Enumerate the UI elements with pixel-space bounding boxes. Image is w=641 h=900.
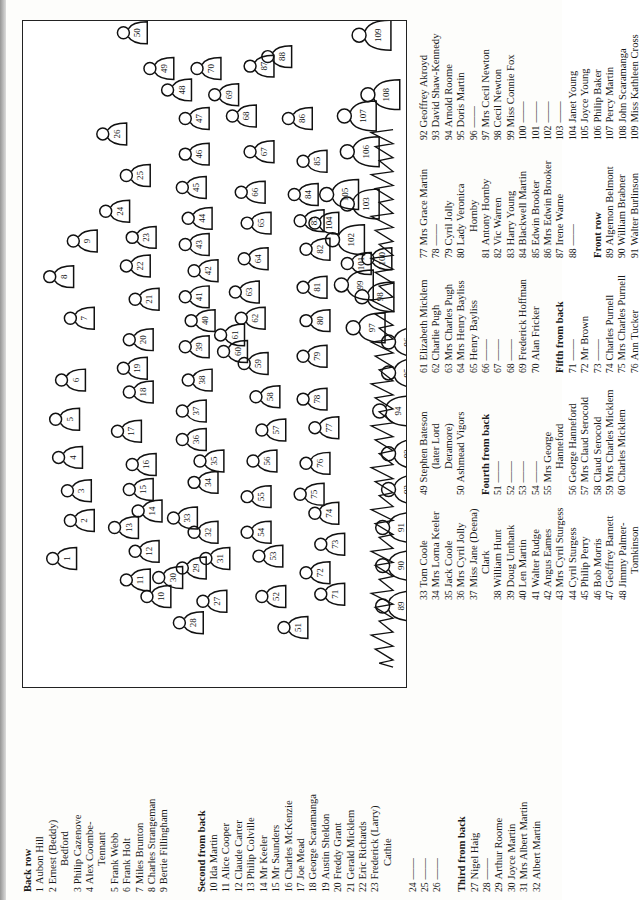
- person-name: Geoffrey Akroyd: [418, 55, 429, 127]
- person-name: Charles Strangeman: [146, 799, 157, 885]
- head-outline: [294, 488, 306, 500]
- head-outline: [320, 188, 334, 202]
- person-name: ——: [517, 101, 528, 122]
- figure-number-label: 12: [144, 547, 154, 556]
- person-entry: 4Alex Coombe-: [84, 794, 96, 892]
- head-outline: [182, 212, 194, 224]
- person-entry: 17Joe Mead: [295, 794, 307, 892]
- person-number: 8: [146, 887, 158, 892]
- person-number: 76: [629, 363, 641, 373]
- row-heading: Second from back: [196, 794, 208, 892]
- head-outline: [185, 315, 197, 327]
- person-number: 87: [554, 248, 566, 258]
- person-entry-continued: (later Lord: [430, 389, 442, 495]
- head-outline: [315, 538, 327, 550]
- person-number: 30: [506, 882, 518, 892]
- person-entry-continued: Tennant: [96, 794, 108, 892]
- head-outline: [176, 405, 188, 417]
- person-number: 82: [492, 248, 504, 258]
- head-outline: [162, 84, 174, 96]
- person-name: Geoffrey Barnett: [604, 516, 615, 588]
- head-outline: [288, 189, 300, 201]
- figure-number-label: 85: [312, 156, 322, 165]
- person-name: Philip Cazenove: [72, 814, 83, 884]
- person-number: 104: [567, 126, 579, 140]
- person-silhouette: 24: [100, 200, 130, 222]
- head-outline: [61, 485, 73, 497]
- person-entry: 75Mrs Charles Purnell: [616, 275, 628, 373]
- person-entry: 55Mrs George: [542, 389, 554, 495]
- group-photo-key-diagram: 1234567891011121314151617181920212223242…: [22, 20, 407, 688]
- person-silhouette: 20: [123, 329, 153, 351]
- person-silhouette: 68: [226, 105, 256, 127]
- person-silhouette: 109: [352, 21, 391, 50]
- person-number: 58: [592, 485, 604, 495]
- figure-number-label: 60: [233, 347, 243, 356]
- person-number: 54: [530, 485, 542, 495]
- spacer: [542, 275, 554, 373]
- person-silhouette: 90: [376, 551, 406, 581]
- person-silhouette: 17: [112, 420, 142, 442]
- person-silhouette: 108: [361, 80, 400, 110]
- person-silhouette: 43: [179, 234, 209, 256]
- row-heading: Front row: [592, 161, 604, 258]
- person-number: 42: [542, 590, 554, 600]
- figure-number-label: 89: [396, 601, 406, 610]
- person-number: 107: [604, 126, 616, 140]
- person-entry: 94Arnold Roome: [443, 34, 455, 140]
- figure-number-label: 77: [324, 423, 334, 432]
- person-silhouette: 18: [123, 381, 153, 403]
- person-number: 23: [369, 882, 381, 892]
- person-name: ——: [554, 101, 565, 122]
- figure-number-label: 61: [230, 330, 240, 339]
- person-silhouette: 3: [61, 480, 91, 502]
- person-entry: 36Mrs Cyril Jolly: [455, 508, 467, 600]
- figure-number-label: 79: [312, 351, 322, 360]
- person-number: 47: [604, 590, 616, 600]
- head-outline: [226, 110, 238, 122]
- person-name: ——: [492, 339, 503, 360]
- figure-number-label: 1: [62, 556, 72, 560]
- person-entry-continued: Hornby: [468, 161, 480, 258]
- person-number: 77: [418, 248, 430, 258]
- person-name: Blackwell Martin: [517, 171, 528, 245]
- row-heading: Third from back: [456, 794, 468, 892]
- person-entry: 43Mrs Cyril Sturgess: [554, 508, 566, 600]
- person-name: Joyce Martin: [506, 824, 517, 880]
- person-number: 68: [505, 363, 517, 373]
- head-outline: [241, 526, 253, 538]
- person-silhouette: 12: [129, 540, 159, 562]
- person-silhouette: 6: [56, 369, 86, 391]
- head-outline: [56, 374, 68, 386]
- person-number: 50: [455, 485, 467, 495]
- person-entry: 90William Brabner: [616, 161, 628, 258]
- figure-number-label: 96: [402, 337, 406, 346]
- person-entry: 68——: [505, 275, 517, 373]
- person-name: Ida Martin: [208, 834, 219, 879]
- head-outline: [326, 233, 340, 247]
- person-silhouette: 86: [282, 107, 312, 129]
- figure-number-label: 43: [194, 240, 204, 249]
- person-name: ——: [481, 858, 492, 879]
- person-number: 72: [579, 363, 591, 373]
- figure-number-label: 23: [141, 232, 151, 241]
- person-name-continued: Deramore): [443, 423, 454, 495]
- person-silhouette: 65: [241, 212, 271, 234]
- person-name: Frank Holt: [121, 838, 132, 884]
- person-silhouette: 93: [382, 439, 406, 469]
- person-number: 91: [629, 248, 641, 258]
- head-outline: [112, 425, 124, 437]
- person-name: Elizabeth Micklem: [418, 280, 429, 361]
- head-outline: [235, 312, 247, 324]
- head-outline: [173, 617, 185, 629]
- person-silhouette: 46: [179, 143, 209, 165]
- person-number: 81: [480, 248, 492, 258]
- person-entry: 82Vic Warren: [492, 161, 504, 258]
- head-outline: [244, 146, 256, 158]
- person-name: Bertie Fillingham: [158, 809, 169, 884]
- person-silhouette: 36: [176, 429, 206, 451]
- person-silhouette: 37: [176, 400, 206, 422]
- person-silhouette: 27: [197, 590, 227, 612]
- person-entry-continued: Bedford: [59, 794, 71, 892]
- head-outline: [129, 545, 141, 557]
